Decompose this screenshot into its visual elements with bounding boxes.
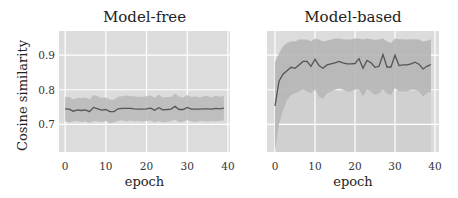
ylabel-model-free: Cosine similarity [15, 39, 30, 151]
x-tick-label: 10 [99, 160, 112, 172]
chart-figure: Model-free epoch Cosine similarity 01020… [0, 0, 458, 198]
x-tick-label: 30 [388, 160, 401, 172]
y-tick-label: 0.9 [38, 49, 55, 61]
lower-region-model-based [275, 88, 431, 152]
panel-model-based: Model-based epoch 010203040 [267, 8, 442, 189]
y-tick-label: 0.7 [38, 118, 55, 130]
x-tick-label: 40 [221, 160, 234, 172]
plot-area-model-free [59, 31, 230, 152]
x-tick-label: 0 [272, 160, 279, 172]
title-model-based: Model-based [304, 8, 402, 26]
xticks-model-based: 010203040 [272, 160, 442, 172]
title-model-free: Model-free [103, 8, 186, 26]
xlabel-model-based: epoch [333, 174, 373, 189]
yticks-model-free: 0.70.80.9 [38, 49, 55, 130]
x-tick-label: 30 [181, 160, 194, 172]
xlabel-model-free: epoch [125, 174, 165, 189]
panel-model-free: Model-free epoch Cosine similarity 01020… [15, 8, 235, 189]
x-tick-label: 10 [308, 160, 321, 172]
x-tick-label: 0 [62, 160, 69, 172]
y-tick-label: 0.8 [38, 84, 55, 96]
xticks-model-free: 010203040 [62, 160, 235, 172]
x-tick-label: 40 [428, 160, 441, 172]
x-tick-label: 20 [348, 160, 361, 172]
x-tick-label: 20 [140, 160, 153, 172]
